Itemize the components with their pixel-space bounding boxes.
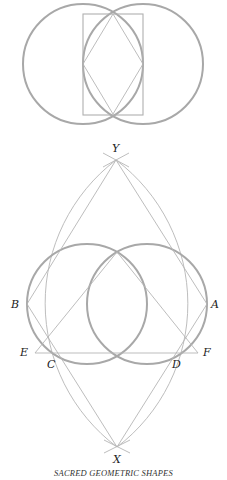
label-B: B	[10, 298, 19, 311]
top-rhombus	[83, 14, 143, 114]
line-A-X	[117, 304, 207, 447]
outer-arc-right	[116, 160, 188, 447]
label-X: X	[112, 453, 122, 466]
bottom-construction-diagram: Y X B A E F C D	[10, 142, 219, 466]
tick-mark-Y	[103, 153, 129, 167]
label-E: E	[19, 346, 28, 359]
figure-caption: SACRED GEOMETRIC SHAPES	[54, 468, 173, 478]
top-vesica-diagram	[23, 4, 203, 124]
line-I-F	[117, 252, 198, 353]
label-C: C	[47, 358, 56, 371]
tick-mark-X	[104, 440, 130, 453]
label-A: A	[210, 298, 219, 311]
label-F: F	[202, 346, 211, 359]
sacred-geometry-figure: Y X B A E F C D SACRED GEOMETRIC SHAPES	[0, 0, 227, 480]
outer-arc-left	[45, 160, 117, 447]
label-Y: Y	[112, 142, 121, 155]
line-B-X	[27, 304, 117, 447]
line-I-E	[35, 252, 117, 353]
line-Y-A	[116, 160, 207, 304]
line-Y-B	[27, 160, 116, 304]
top-bounding-rectangle	[83, 14, 143, 115]
label-D: D	[171, 358, 181, 371]
